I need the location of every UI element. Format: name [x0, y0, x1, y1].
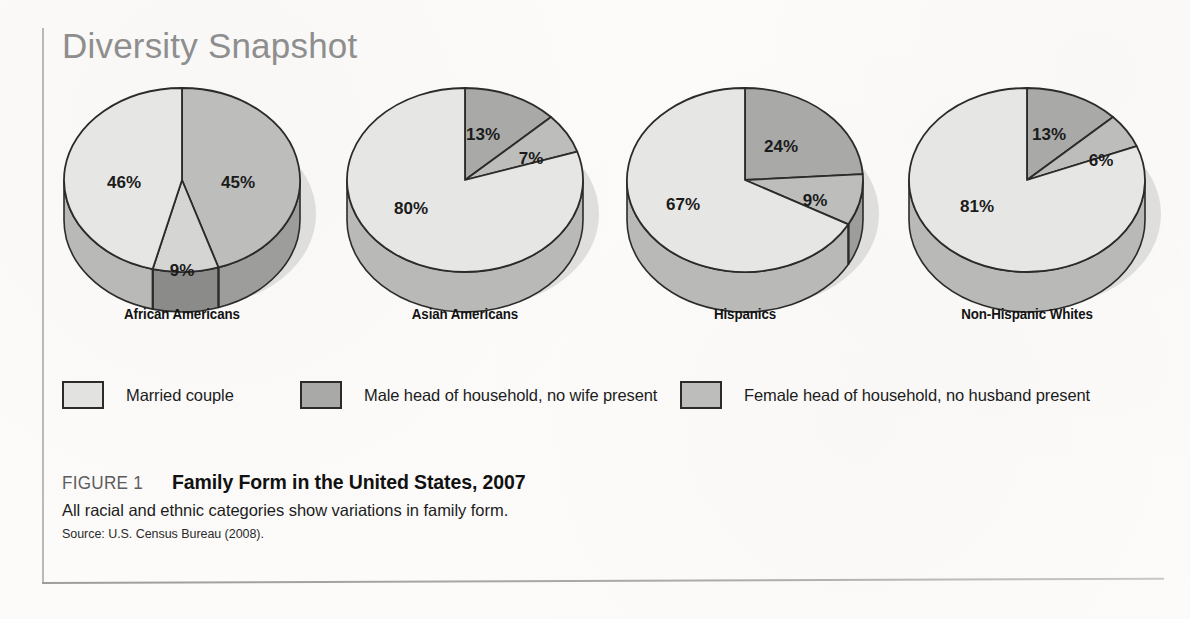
- pie-category-label: Hispanics: [616, 306, 874, 322]
- figure-title-line: FIGURE 1 Family Form in the United State…: [62, 470, 1152, 494]
- figure-caption: FIGURE 1 Family Form in the United State…: [62, 470, 1152, 541]
- pie-slice-label: 24%: [764, 137, 798, 156]
- pie-slice-label: 13%: [466, 125, 500, 144]
- figure-number: FIGURE 1: [62, 472, 143, 494]
- legend-swatch-married: [62, 381, 104, 409]
- pie-category-label: Non-Hispanic Whites: [898, 306, 1156, 322]
- pie-chart-2: 13%7%80%Asian Americans: [325, 92, 605, 327]
- legend-item-male_head: Male head of household, no wife present: [300, 375, 657, 415]
- chart-legend: Married coupleMale head of household, no…: [62, 375, 1152, 417]
- pie-slice-1: [745, 88, 863, 180]
- pie-slice-label: 13%: [1032, 125, 1066, 144]
- legend-item-married: Married couple: [62, 375, 234, 415]
- figure-title: Family Form in the United States, 2007: [172, 470, 526, 494]
- pie-chart-3: 24%9%67%Hispanics: [605, 92, 885, 327]
- pie-slice-label: 9%: [803, 191, 828, 210]
- pie-chart-row: 45%9%46%African Americans13%7%80%Asian A…: [42, 92, 1167, 327]
- legend-swatch-male_head: [300, 381, 342, 409]
- page-title: Diversity Snapshot: [62, 26, 357, 66]
- legend-label-married: Married couple: [126, 386, 234, 405]
- pie-slice-label: 80%: [394, 199, 428, 218]
- pie-slice-label: 6%: [1089, 151, 1114, 170]
- legend-label-male_head: Male head of household, no wife present: [364, 386, 657, 405]
- pie-slice-label: 81%: [960, 197, 994, 216]
- pie-slice-label: 46%: [107, 173, 141, 192]
- figure-source: Source: U.S. Census Bureau (2008).: [62, 527, 1152, 541]
- pie-category-label: African Americans: [53, 306, 311, 322]
- pie-slice-label: 9%: [170, 261, 195, 280]
- pie-slice-label: 7%: [519, 149, 544, 168]
- pie-category-label: Asian Americans: [336, 306, 594, 322]
- legend-swatch-female_head: [680, 381, 722, 409]
- pie-chart-4: 13%6%81%Non-Hispanic Whites: [887, 92, 1167, 327]
- pie-slice-label: 45%: [221, 173, 255, 192]
- pie-slice-label: 67%: [666, 195, 700, 214]
- legend-label-female_head: Female head of household, no husband pre…: [744, 386, 1090, 405]
- figure-description: All racial and ethnic categories show va…: [62, 501, 1152, 520]
- pie-chart-1: 45%9%46%African Americans: [42, 92, 322, 327]
- legend-item-female_head: Female head of household, no husband pre…: [680, 375, 1090, 415]
